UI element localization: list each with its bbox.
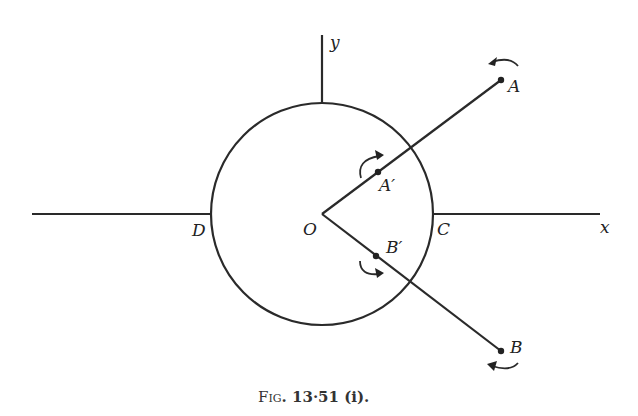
- point-B: [498, 348, 504, 354]
- point-A: [498, 77, 504, 83]
- caption-number: . 13·51 (i).: [282, 388, 370, 406]
- label-A: A: [506, 76, 520, 96]
- label-D: D: [191, 220, 206, 240]
- label-C: C: [437, 219, 450, 239]
- figure-caption: FIG. 13·51 (i).: [258, 388, 369, 406]
- point-B-prime: [373, 253, 379, 259]
- rotation-arrow-B-prime-icon: [360, 261, 384, 278]
- label-origin: O: [303, 219, 317, 239]
- label-y-axis: y: [329, 32, 340, 52]
- caption-fig-smallcaps: IG: [268, 392, 281, 405]
- ray-OA: [322, 80, 501, 214]
- rotation-arrow-A-icon: [488, 57, 518, 66]
- rotation-arrow-B-icon: [487, 361, 518, 371]
- diagram-canvas: y x O A A′ B B′ C D FIG. 13·51 (i).: [0, 0, 638, 416]
- label-A-prime: A′: [377, 175, 395, 195]
- label-x-axis: x: [600, 217, 610, 237]
- ray-OB: [322, 214, 501, 351]
- label-B: B: [509, 337, 523, 357]
- label-B-prime: B′: [385, 237, 402, 257]
- caption-fig-initial: F: [258, 388, 268, 406]
